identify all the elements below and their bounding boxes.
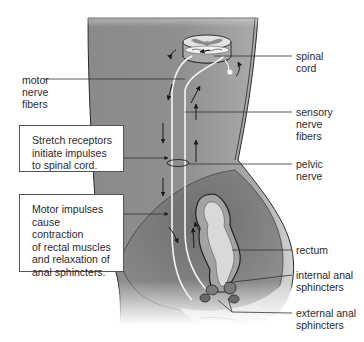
label-rectum: rectum (296, 244, 328, 256)
label-external-anal-sphincters: external anal sphincters (296, 307, 356, 331)
label-spinal-cord: spinal cord (296, 50, 323, 74)
label-motor-nerve-fibers: motor nerve fibers (22, 74, 49, 110)
label-sensory-nerve-fibers: sensory nerve fibers (296, 106, 333, 142)
label-pelvic-nerve: pelvic nerve (296, 158, 323, 182)
callout-motor-impulses: Motor impulses cause contraction of rect… (19, 194, 124, 272)
label-internal-anal-sphincters: internal anal sphincters (296, 269, 353, 293)
spinal-cord-section (183, 35, 231, 63)
diagram-canvas: motor nerve fibers spinal cord sensory n… (0, 0, 364, 342)
internal-sphincter-right (224, 282, 236, 294)
callout-stretch-receptors: Stretch receptors initiate impulses to s… (19, 125, 124, 172)
external-sphincter-left (200, 294, 210, 302)
internal-sphincter-left (206, 285, 218, 295)
external-sphincter-right (229, 295, 239, 303)
